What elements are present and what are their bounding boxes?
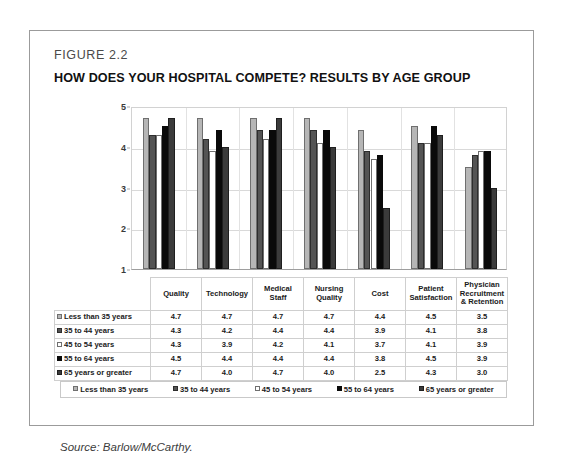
series-swatch-icon	[57, 370, 62, 375]
table-cell: 4.1	[406, 325, 457, 339]
bar-group	[186, 108, 240, 269]
legend-item: 35 to 44 years	[173, 385, 230, 394]
table-cell: 4.7	[304, 311, 355, 325]
y-axis-tick-label: 2	[121, 225, 126, 234]
chart-bar	[491, 188, 497, 270]
table-cell: 3.5	[457, 311, 508, 325]
table-column-header: Physician Recruitment & Retention	[457, 278, 508, 311]
bar-group	[454, 108, 508, 269]
table-cell: 3.9	[202, 339, 253, 353]
legend-item: 65 years or greater	[419, 385, 494, 394]
table-row-header: 65 years or greater	[55, 367, 151, 381]
table-cell: 4.3	[406, 367, 457, 381]
table-cell: 4.1	[406, 339, 457, 353]
table-row: 55 to 64 years4.54.44.44.43.84.53.9	[55, 353, 508, 367]
legend-item: 55 to 64 years	[337, 385, 394, 394]
y-axis-tick-label: 5	[121, 103, 126, 112]
y-axis-tick-label: 1	[121, 266, 126, 275]
table-head: QualityTechnologyMedical StaffNursing Qu…	[55, 278, 508, 311]
table-row-label: 65 years or greater	[64, 368, 132, 377]
table-header-row: QualityTechnologyMedical StaffNursing Qu…	[55, 278, 508, 311]
table-cell: 4.4	[253, 325, 304, 339]
table-cell: 4.4	[304, 325, 355, 339]
bar-group	[347, 108, 401, 269]
table-cell: 4.4	[355, 311, 406, 325]
table-row-header: Less than 35 years	[55, 311, 151, 325]
table-row: 35 to 44 years4.34.24.44.43.94.13.8	[55, 325, 508, 339]
legend-item-label: 65 years or greater	[426, 385, 494, 394]
table-cell: 4.7	[253, 311, 304, 325]
legend-swatch-icon	[255, 386, 260, 391]
table-column-header: Technology	[202, 278, 253, 311]
table-cell: 3.9	[457, 353, 508, 367]
table-row-header: 55 to 64 years	[55, 353, 151, 367]
table-row-label: 45 to 54 years	[64, 340, 114, 349]
bar-group	[239, 108, 293, 269]
table-column-header: Medical Staff	[253, 278, 304, 311]
y-axis-tick-label: 3	[121, 184, 126, 193]
figure-page: FIGURE 2.2 HOW DOES YOUR HOSPITAL COMPET…	[0, 0, 565, 456]
y-axis-tick-mark	[127, 188, 130, 189]
legend-swatch-icon	[73, 386, 78, 391]
table-column-header: Cost	[355, 278, 406, 311]
table-cell: 4.7	[202, 311, 253, 325]
table-cell: 4.0	[304, 367, 355, 381]
chart-bar	[168, 118, 174, 269]
figure-title: HOW DOES YOUR HOSPITAL COMPETE? RESULTS …	[54, 71, 470, 85]
table-cell: 4.7	[151, 367, 202, 381]
table-cell: 4.7	[253, 367, 304, 381]
table-row-label: Less than 35 years	[64, 312, 132, 321]
bar-chart: 12345	[110, 107, 507, 295]
y-axis-tick-label: 4	[121, 143, 126, 152]
table-cell: 3.0	[457, 367, 508, 381]
table-cell: 4.4	[202, 353, 253, 367]
legend-item-label: 35 to 44 years	[180, 385, 230, 394]
legend-swatch-icon	[419, 386, 424, 391]
data-table-wrapper: QualityTechnologyMedical StaffNursing Qu…	[54, 277, 507, 381]
table-cell: 4.5	[406, 353, 457, 367]
chart-bar	[330, 147, 336, 269]
source-note: Source: Barlow/McCarthy.	[60, 441, 193, 453]
y-axis-tick-mark	[127, 147, 130, 148]
legend-item-label: 55 to 64 years	[344, 385, 394, 394]
table-cell: 4.2	[202, 325, 253, 339]
table-cell: 2.5	[355, 367, 406, 381]
chart-bar	[222, 147, 228, 269]
chart-bar	[276, 118, 282, 269]
legend-item: Less than 35 years	[73, 385, 148, 394]
plot-area	[131, 107, 507, 270]
figure-container: FIGURE 2.2 HOW DOES YOUR HOSPITAL COMPET…	[29, 30, 534, 426]
bar-group	[132, 108, 186, 269]
table-cell: 4.2	[253, 339, 304, 353]
table-corner-cell	[55, 278, 151, 311]
table-row-label: 55 to 64 years	[64, 354, 114, 363]
bar-group	[293, 108, 347, 269]
table-body: Less than 35 years4.74.74.74.74.44.53.53…	[55, 311, 508, 381]
chart-legend: Less than 35 years35 to 44 years45 to 54…	[60, 381, 507, 398]
table-cell: 4.5	[151, 353, 202, 367]
y-axis-tick-mark	[127, 229, 130, 230]
legend-swatch-icon	[337, 386, 342, 391]
y-axis: 12345	[110, 107, 130, 270]
legend-item-label: 45 to 54 years	[262, 385, 312, 394]
chart-bar	[437, 135, 443, 269]
legend-item-label: Less than 35 years	[80, 385, 148, 394]
table-cell: 3.8	[355, 353, 406, 367]
series-swatch-icon	[57, 342, 62, 347]
figure-number: FIGURE 2.2	[54, 48, 128, 62]
bar-group	[401, 108, 455, 269]
table-cell: 4.5	[406, 311, 457, 325]
legend-item: 45 to 54 years	[255, 385, 312, 394]
table-cell: 4.4	[304, 353, 355, 367]
table-row: Less than 35 years4.74.74.74.74.44.53.5	[55, 311, 508, 325]
table-column-header: Quality	[151, 278, 202, 311]
table-row-label: 35 to 44 years	[64, 326, 114, 335]
chart-bar	[383, 208, 389, 269]
table-row: 45 to 54 years4.33.94.24.13.74.13.9	[55, 339, 508, 353]
table-cell: 4.1	[304, 339, 355, 353]
table-cell: 3.9	[457, 339, 508, 353]
table-cell: 3.8	[457, 325, 508, 339]
table-column-header: Patient Satisfaction	[406, 278, 457, 311]
table-cell: 3.7	[355, 339, 406, 353]
series-swatch-icon	[57, 314, 62, 319]
